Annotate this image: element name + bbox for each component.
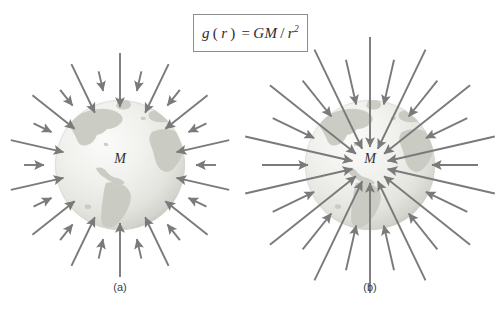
formula-slash: / <box>277 25 287 41</box>
formula-paren-close: ) <box>227 25 238 41</box>
formula-numerator: GM <box>253 25 277 41</box>
formula-equals: = <box>239 25 254 41</box>
panel-label-a: (a) <box>100 281 140 293</box>
mass-label-a: M <box>113 151 127 166</box>
island-dot-2-icon <box>141 117 146 120</box>
formula-function: g <box>202 25 210 41</box>
formula-exponent: 2 <box>294 24 299 34</box>
mass-label-b: M <box>363 151 377 166</box>
formula-box: g(r)=GM/r2 <box>193 14 308 52</box>
panel-label-b: (b) <box>350 281 390 293</box>
formula-text: g(r)=GM/r2 <box>202 24 299 42</box>
formula-paren-open: ( <box>210 25 221 41</box>
